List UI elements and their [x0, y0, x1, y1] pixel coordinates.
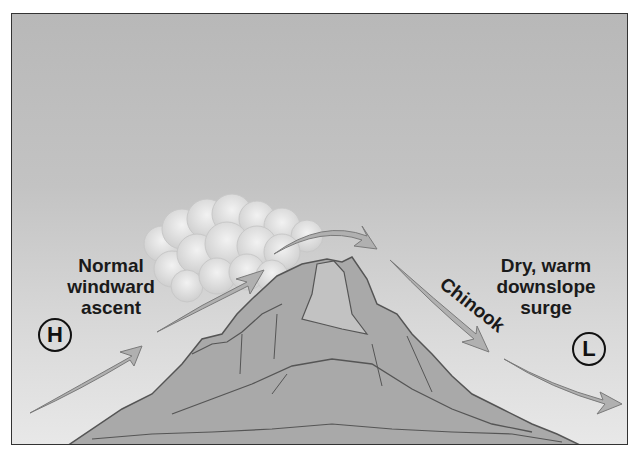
- diagram-frame: Normal windward ascent Dry, warm downslo…: [11, 13, 628, 445]
- leeward-label-line-1: Dry, warm: [482, 255, 610, 276]
- windward-ascent-label: Normal windward ascent: [56, 255, 166, 318]
- chinook-diagram-graphic: [12, 14, 628, 445]
- downslope-surge-label: Dry, warm downslope surge: [482, 255, 610, 318]
- windward-label-line-2: windward: [56, 276, 166, 297]
- windward-label-line-1: Normal: [56, 255, 166, 276]
- high-pressure-circle: H: [38, 318, 72, 352]
- windward-label-line-3: ascent: [56, 297, 166, 318]
- low-pressure-circle: L: [572, 332, 606, 366]
- leeward-label-line-2: downslope: [482, 276, 610, 297]
